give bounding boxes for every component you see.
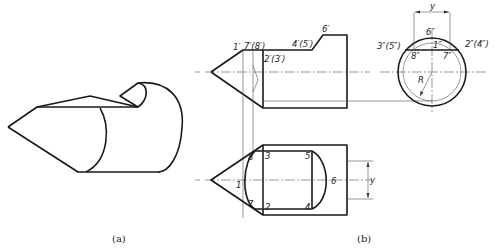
arrow-down-icon — [367, 193, 370, 198]
hyperbola-curve — [253, 65, 258, 92]
arrow-up-icon — [367, 162, 370, 167]
label-3dprime-5dprime: 3″(5″) — [377, 41, 401, 51]
label-1: 1 — [236, 180, 241, 190]
label-4: 4 — [305, 202, 310, 212]
label-7prime-8prime: 7′(8′) — [244, 41, 265, 51]
front-view — [205, 35, 432, 218]
label-1dprime: 1″ — [433, 40, 442, 50]
label-y-top: y — [369, 175, 376, 185]
label-7: 7 — [248, 199, 254, 209]
cone-top-edge — [8, 96, 138, 127]
label-8dprime: 8″ — [411, 51, 420, 61]
label-2dprime-4dprime: 2″(4″) — [465, 39, 489, 49]
cylinder-end — [138, 83, 182, 172]
label-3: 3 — [265, 151, 270, 161]
label-6dprime: 6″ — [426, 27, 435, 37]
label-5: 5 — [305, 151, 310, 161]
top-view — [205, 145, 373, 215]
caption-a: (a) — [112, 233, 126, 244]
label-7dprime: 7″ — [443, 51, 452, 61]
label-1prime: 1′ — [233, 42, 240, 52]
cone-bottom-edge — [8, 127, 160, 172]
arrow-right-icon — [444, 11, 449, 14]
label-2: 2 — [265, 202, 270, 212]
label-2prime-3prime: 2′(3′) — [264, 54, 285, 64]
arrow-left-icon — [415, 11, 420, 14]
label-6prime: 6′ — [322, 24, 329, 34]
caption-b: (b) — [357, 233, 371, 244]
label-radius: R — [418, 75, 424, 85]
seam-arc — [86, 108, 106, 172]
technical-drawing: (a) 1′ 7′(8′) 2′(3′) 4′(5′) 6′ y 6″ 3″(5… — [0, 0, 498, 250]
side-view — [380, 11, 487, 113]
label-6: 6 — [331, 176, 337, 186]
label-8: 8 — [248, 152, 254, 162]
radius-arrow-icon — [420, 91, 424, 96]
label-y-side: y — [429, 1, 436, 11]
isometric-view — [8, 72, 200, 180]
label-4prime-5prime: 4′(5′) — [292, 39, 313, 49]
front-outline — [211, 35, 347, 108]
